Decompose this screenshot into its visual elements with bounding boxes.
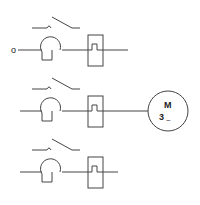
relay-box-icon xyxy=(88,157,103,188)
motor-phase-count: 3 xyxy=(159,112,164,122)
motor-icon: M 3 ~ xyxy=(148,91,188,131)
input-terminal-label: o xyxy=(11,45,16,55)
thermal-overload-icon xyxy=(41,37,61,60)
relay-box-icon xyxy=(88,96,103,127)
row-3 xyxy=(20,139,118,188)
thermal-overload-icon xyxy=(41,159,61,182)
motor-phase-symbol: ~ xyxy=(166,116,171,125)
switch-contact-icon xyxy=(32,78,80,89)
row-2 xyxy=(20,78,148,127)
motor-label: M xyxy=(164,100,172,110)
relay-box-icon xyxy=(88,35,103,66)
switch-contact-icon xyxy=(32,17,80,28)
schematic-svg: o xyxy=(0,0,200,205)
row-1 xyxy=(18,17,128,66)
schematic-canvas: o xyxy=(0,0,200,205)
thermal-overload-icon xyxy=(41,98,61,121)
switch-contact-icon xyxy=(32,139,80,150)
